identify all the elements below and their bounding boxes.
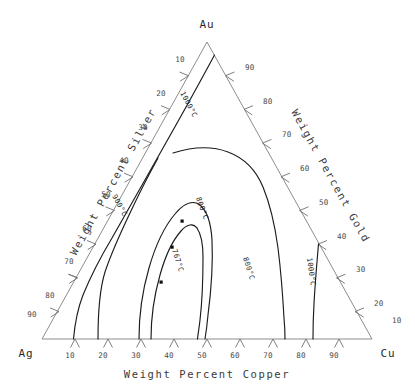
marker-point-1 <box>181 220 184 223</box>
tick-label-right-40: 40 <box>337 232 347 241</box>
tick-label-bottom-80: 80 <box>296 351 306 360</box>
tick-label-right-90: 90 <box>245 63 255 72</box>
tick-labels-bottom-axis: 10 20 30 40 50 60 70 80 90 <box>65 351 339 360</box>
marker-point-3 <box>160 281 163 284</box>
tick-label-left-70: 70 <box>64 257 74 266</box>
marker-point-2 <box>171 246 174 249</box>
tick-label-right-70: 70 <box>282 130 292 139</box>
tick-label-right-60: 60 <box>300 164 310 173</box>
corner-label-au: Au <box>199 18 214 31</box>
tick-label-right-50: 50 <box>319 198 329 207</box>
axis-title-right: Weight Percent Gold <box>289 107 372 244</box>
tick-label-right-10: 10 <box>392 316 402 325</box>
tick-label-bottom-30: 30 <box>131 351 141 360</box>
tick-label-bottom-50: 50 <box>197 351 207 360</box>
tick-label-bottom-90: 90 <box>329 351 339 360</box>
tick-label-left-40: 40 <box>119 156 129 165</box>
tick-labels-right-axis: 90 80 70 60 50 40 30 20 10 <box>245 63 402 325</box>
tick-label-right-80: 80 <box>263 97 273 106</box>
axis-title-bottom: Weight Percent Copper <box>124 368 290 380</box>
axis-right-au-cu <box>207 42 372 339</box>
tick-label-left-10: 10 <box>175 55 185 64</box>
contour-label-800c-inner: 800°C <box>194 196 211 221</box>
contour-label-800c-right: 800°C <box>241 256 257 281</box>
tick-label-left-30: 30 <box>138 123 148 132</box>
tick-label-bottom-70: 70 <box>263 351 273 360</box>
corner-label-ag: Ag <box>18 347 33 360</box>
tick-label-left-80: 80 <box>45 291 55 300</box>
contour-label-767c-eutectic: 767°C <box>170 248 186 273</box>
isotherm-1000c-silver-branch <box>74 55 215 339</box>
tick-label-left-50: 50 <box>101 190 111 199</box>
contour-label-1000c-right: 1000°C <box>305 257 318 286</box>
ternary-phase-diagram: Au Ag Cu Weight Percent Silver Weight Pe… <box>0 0 415 388</box>
tick-label-bottom-60: 60 <box>230 351 240 360</box>
isotherm-800c-closed-loop <box>139 203 212 339</box>
triangle-axes <box>42 42 372 339</box>
tick-label-right-30: 30 <box>356 265 366 274</box>
tick-label-left-60: 60 <box>82 224 92 233</box>
ternary-plot-canvas: Au Ag Cu Weight Percent Silver Weight Pe… <box>0 0 415 388</box>
contour-label-900c-left: 900°C <box>110 193 129 218</box>
tick-label-bottom-20: 20 <box>98 351 108 360</box>
axis-left-ag-au <box>42 42 207 339</box>
tick-label-left-90: 90 <box>27 310 37 319</box>
tick-label-right-20: 20 <box>374 299 384 308</box>
tick-label-left-20: 20 <box>156 89 166 98</box>
corner-label-cu: Cu <box>380 347 395 360</box>
tick-label-bottom-40: 40 <box>164 351 174 360</box>
ticks-bottom-axis <box>71 339 344 348</box>
tick-label-bottom-10: 10 <box>65 351 75 360</box>
isotherm-800c-gold-copper-branch <box>173 148 285 339</box>
isotherm-767c-eutectic-valley-right <box>197 228 203 339</box>
